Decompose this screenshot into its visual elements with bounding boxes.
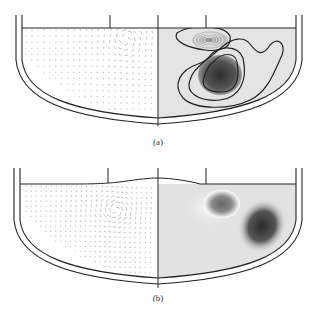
velocity-vector	[144, 67, 146, 68]
velocity-vector	[99, 231, 101, 232]
velocity-vector	[85, 96, 86, 97]
velocity-vector	[97, 47, 98, 49]
velocity-vector	[129, 242, 131, 243]
velocity-vector	[129, 232, 131, 233]
velocity-vector	[94, 261, 96, 262]
velocity-vector	[115, 39, 116, 43]
velocity-vector	[108, 78, 110, 79]
velocity-vector	[71, 190, 72, 192]
velocity-vector	[126, 187, 128, 188]
velocity-vector	[145, 267, 146, 268]
velocity-vector	[131, 192, 133, 194]
velocity-vector	[140, 262, 141, 263]
velocity-vector	[85, 241, 86, 242]
velocity-vector	[85, 84, 86, 85]
velocity-vector	[70, 230, 71, 232]
velocity-vector	[120, 212, 121, 216]
velocity-vector	[85, 72, 86, 73]
velocity-vector	[85, 256, 86, 257]
velocity-vector	[124, 49, 128, 50]
velocity-vector	[124, 222, 126, 224]
velocity-vector	[80, 220, 81, 222]
velocity-vector	[124, 237, 126, 238]
velocity-vector	[85, 53, 86, 55]
velocity-vector	[121, 202, 124, 205]
velocity-vector	[85, 90, 86, 91]
panel-a	[16, 15, 302, 126]
velocity-vector	[61, 66, 62, 67]
velocity-vector	[85, 236, 86, 237]
velocity-vector	[119, 237, 121, 238]
velocity-vector	[152, 31, 153, 33]
velocity-vector	[97, 84, 98, 85]
velocity-vector	[140, 272, 141, 273]
velocity-vector	[99, 225, 101, 227]
velocity-vector	[146, 31, 147, 33]
velocity-vector	[145, 262, 146, 263]
velocity-vector	[131, 55, 134, 57]
velocity-vector	[79, 90, 80, 91]
velocity-vector	[92, 29, 93, 31]
velocity-vector	[146, 187, 147, 189]
velocity-vector	[73, 59, 74, 61]
velocity-vector	[81, 190, 82, 192]
velocity-vector	[71, 185, 72, 187]
velocity-vector	[91, 66, 92, 67]
velocity-vector	[118, 48, 122, 49]
velocity-vector	[121, 207, 123, 211]
velocity-vector	[60, 236, 61, 237]
velocity-vector	[144, 97, 146, 98]
velocity-vector	[79, 72, 80, 73]
velocity-vector	[98, 29, 99, 31]
velocity-vector	[151, 67, 152, 68]
velocity-vector	[105, 208, 106, 212]
velocity-vector	[145, 222, 146, 224]
velocity-vector	[90, 230, 91, 232]
velocity-vector	[94, 246, 96, 247]
velocity-vector	[103, 47, 104, 49]
velocity-vector	[97, 90, 98, 91]
velocity-vector	[85, 246, 86, 247]
velocity-vector	[121, 187, 123, 188]
velocity-vector	[122, 34, 125, 37]
panel-a-caption: (a)	[138, 137, 178, 147]
velocity-vector	[136, 187, 138, 188]
velocity-vector	[99, 241, 101, 242]
velocity-vector	[134, 267, 136, 268]
velocity-vector	[97, 72, 98, 73]
velocity-vector	[140, 222, 141, 224]
velocity-vector	[99, 256, 101, 257]
velocity-vector	[108, 84, 110, 85]
velocity-vector	[118, 217, 121, 220]
velocity-vector	[94, 236, 96, 237]
velocity-vector	[96, 190, 98, 192]
velocity-vector	[141, 192, 142, 194]
velocity-vector	[128, 31, 132, 32]
panel-b-upper-vortex	[204, 190, 240, 218]
velocity-vector	[121, 197, 124, 198]
velocity-vector	[106, 186, 108, 187]
velocity-vector	[150, 227, 151, 229]
velocity-vector	[145, 242, 146, 243]
velocity-vector	[140, 267, 141, 268]
velocity-vector	[135, 272, 136, 273]
velocity-vector	[109, 40, 110, 43]
velocity-vector	[116, 33, 117, 37]
velocity-vector	[91, 96, 92, 97]
velocity-vector	[111, 196, 114, 197]
velocity-vector	[94, 256, 96, 257]
velocity-vector	[70, 241, 71, 242]
velocity-vector	[55, 78, 56, 79]
velocity-vector	[129, 247, 131, 248]
velocity-vector	[85, 66, 86, 67]
velocity-vector	[75, 220, 76, 222]
velocity-vector	[151, 55, 152, 57]
velocity-vector	[75, 246, 76, 247]
velocity-vector	[151, 79, 152, 80]
velocity-vector	[135, 227, 136, 229]
velocity-vector	[113, 212, 116, 214]
velocity-vector	[133, 43, 134, 47]
velocity-vector	[75, 251, 76, 252]
velocity-vector	[125, 43, 128, 46]
velocity-vector	[91, 72, 92, 73]
